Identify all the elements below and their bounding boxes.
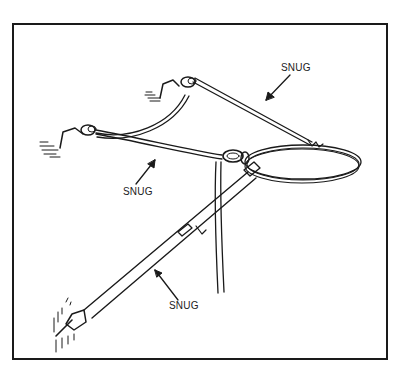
rope-tiedown-diagram — [0, 0, 401, 377]
label-snug-top-right: SNUG — [281, 62, 311, 73]
arrow-middle-left — [136, 160, 155, 184]
ground-stake-left — [40, 125, 96, 157]
rope-upper-to-coil — [195, 78, 312, 142]
arrow-top-right — [266, 75, 290, 100]
figure-frame — [13, 24, 387, 359]
label-snug-bottom: SNUG — [169, 300, 199, 311]
arrow-bottom — [155, 270, 178, 300]
ground-stake-lower — [54, 298, 86, 352]
strap-to-lower-stake — [84, 162, 260, 318]
rope-hanging-end — [215, 162, 218, 293]
rope-left-to-center — [96, 130, 222, 155]
label-snug-middle-left: SNUG — [123, 186, 153, 197]
rope-left-to-upper — [96, 95, 185, 135]
rope-coil — [245, 145, 361, 183]
